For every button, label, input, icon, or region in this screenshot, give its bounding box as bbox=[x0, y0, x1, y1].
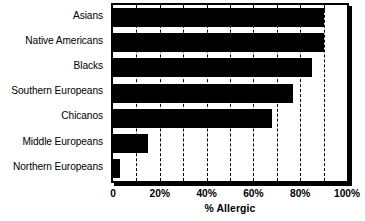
plot-frame bbox=[111, 3, 349, 183]
category-label: Middle Europeans bbox=[0, 136, 103, 147]
plot-area bbox=[113, 5, 347, 181]
x-tick-label: 100% bbox=[334, 188, 360, 200]
bar-chart: AsiansNative AmericansBlacksSouthern Eur… bbox=[0, 0, 365, 221]
x-axis-title: % Allergic bbox=[111, 203, 349, 214]
category-label: Southern Europeans bbox=[0, 85, 103, 96]
bar bbox=[113, 109, 272, 128]
bar bbox=[113, 159, 120, 178]
x-tick-label: 40% bbox=[196, 188, 216, 200]
x-axis-tick-labels: 020%40%60%80%100% bbox=[0, 188, 365, 202]
category-label: Chicanos bbox=[0, 110, 103, 121]
gridline-80 bbox=[300, 5, 301, 181]
category-axis-labels: AsiansNative AmericansBlacksSouthern Eur… bbox=[0, 3, 106, 183]
category-label: Northern Europeans bbox=[0, 161, 103, 172]
bar bbox=[113, 8, 324, 27]
x-tick-label: 80% bbox=[290, 188, 310, 200]
x-tick-label: 20% bbox=[150, 188, 170, 200]
category-label: Native Americans bbox=[0, 35, 103, 46]
bar bbox=[113, 58, 312, 77]
x-tick-label: 0 bbox=[110, 188, 116, 200]
gridline-90 bbox=[324, 5, 325, 181]
category-label: Asians bbox=[0, 10, 103, 21]
bar bbox=[113, 134, 148, 153]
x-tick-label: 60% bbox=[243, 188, 263, 200]
category-label: Blacks bbox=[0, 60, 103, 71]
bar bbox=[113, 84, 293, 103]
tick-mark-90 bbox=[324, 5, 325, 10]
bar bbox=[113, 33, 324, 52]
